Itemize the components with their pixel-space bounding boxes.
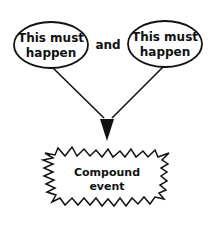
right-node-line2: happen	[140, 45, 191, 59]
right-node-line1: This must	[132, 30, 198, 44]
and-connector-label: and	[95, 38, 120, 52]
left-connector-line	[52, 67, 104, 118]
compound-event-node: Compound event	[43, 147, 169, 206]
left-node-line2: happen	[26, 46, 77, 60]
left-node-line1: This must	[18, 31, 84, 45]
arrowhead-icon	[100, 119, 114, 141]
left-event-node: This must happen	[14, 22, 88, 68]
compound-event-diagram: This must happen and This must happen Co…	[0, 0, 213, 229]
right-event-node: This must happen	[128, 21, 202, 67]
right-connector-line	[112, 67, 163, 118]
compound-node-line1: Compound	[74, 166, 140, 179]
compound-node-line2: event	[89, 180, 124, 193]
